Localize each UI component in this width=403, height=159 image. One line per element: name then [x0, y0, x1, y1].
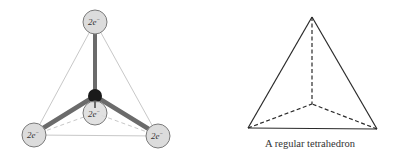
- caption: A regular tetrahedron: [265, 138, 356, 149]
- electron-pair-model: 2e− 2e− 2e− 2e−: [22, 10, 170, 148]
- diagram-canvas: 2e− 2e− 2e− 2e− A regular tetrahedron: [0, 0, 403, 159]
- edge-right-back: [312, 104, 377, 129]
- edge-apex-left: [248, 17, 312, 128]
- orbital-bottom-left: 2e−: [22, 123, 46, 147]
- regular-tetrahedron: [248, 17, 377, 129]
- edge-left-back: [248, 104, 312, 128]
- edge-apex-right: [312, 17, 377, 129]
- orbital-bottom-right: 2e−: [146, 124, 170, 148]
- orbital-top: 2e−: [83, 10, 107, 34]
- hidden-edges: [248, 17, 377, 129]
- edge-left-right: [248, 128, 377, 129]
- orbital-bottom-front: 2e−: [83, 101, 107, 125]
